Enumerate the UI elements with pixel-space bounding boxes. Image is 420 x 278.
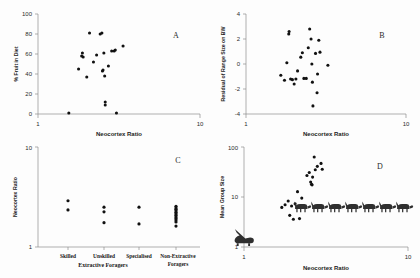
- data-point: [311, 183, 314, 186]
- data-point: [311, 176, 314, 179]
- data-point: [95, 53, 98, 56]
- panel-a-letter: A: [173, 31, 179, 40]
- panel-c-plot: 1 10 Skilled Unskilled Specialised Non-E…: [0, 139, 210, 278]
- data-point: [298, 217, 301, 220]
- data-point: [307, 46, 310, 49]
- data-point: [285, 61, 288, 64]
- data-point: [318, 51, 321, 54]
- panel-a-ytick-0: 0: [29, 111, 33, 117]
- data-point: [316, 72, 319, 75]
- panel-a-ytick-80: 80: [25, 31, 32, 37]
- data-point: [92, 60, 95, 63]
- panel-d-icon-row: [294, 202, 413, 213]
- data-point: [85, 75, 88, 78]
- panel-c: 1 10 Skilled Unskilled Specialised Non-E…: [0, 139, 210, 278]
- data-point: [107, 64, 110, 67]
- panel-c-group-label: Extractive Foragers: [78, 262, 128, 268]
- panel-a-xtick-1: 1: [36, 121, 40, 127]
- panel-c-category-unskilled: Unskilled: [93, 253, 115, 259]
- panel-b: -4 -2 0 2 4 1 10 Neocortex Ratio Residua…: [210, 0, 420, 139]
- panel-a-plot: 0 20 40 60 80 100 1 10 Neocortex Ratio %…: [0, 0, 210, 139]
- monkey-silhouette-icon: [362, 202, 379, 213]
- data-point: [66, 199, 69, 202]
- data-point: [104, 100, 107, 103]
- panel-c-ytick-10: 10: [25, 145, 32, 151]
- panel-b-datapoints: [279, 27, 329, 107]
- data-point: [293, 82, 296, 85]
- panel-c-ytick-1: 1: [29, 244, 33, 250]
- data-point: [299, 56, 302, 59]
- data-point: [300, 197, 303, 200]
- monkey-silhouette-icon: [345, 202, 362, 213]
- data-point: [67, 111, 70, 114]
- data-point: [291, 78, 294, 81]
- data-point: [316, 165, 319, 168]
- data-point: [313, 155, 316, 158]
- panel-c-ylabel: Neocortex Ratio: [12, 177, 18, 217]
- panel-d-ytick-100: 100: [228, 145, 239, 151]
- data-point: [137, 222, 140, 225]
- panel-c-letter: C: [175, 156, 180, 165]
- monkey-silhouette-icon: [328, 202, 345, 213]
- panel-c-datapoints: [66, 199, 177, 227]
- data-point: [308, 27, 311, 30]
- panel-a-datapoints: [67, 31, 124, 114]
- data-point: [311, 104, 314, 107]
- panel-a-xtick-10: 10: [197, 121, 204, 127]
- panel-d-y-ticks: 1 10 100: [228, 145, 244, 251]
- data-point: [305, 174, 308, 177]
- panel-b-letter: B: [379, 31, 384, 40]
- panel-b-plot: -4 -2 0 2 4 1 10 Neocortex Ratio Residua…: [210, 0, 420, 139]
- figure-container: 0 20 40 60 80 100 1 10 Neocortex Ratio %…: [0, 0, 420, 278]
- panel-b-ylabel: Residual of Range Size on BW: [220, 26, 226, 101]
- data-point: [103, 74, 106, 77]
- data-point: [311, 81, 314, 84]
- data-point: [114, 48, 117, 51]
- data-point: [280, 206, 283, 209]
- panel-b-x-ticks: 1 10: [244, 114, 410, 127]
- panel-b-ytick-0: 0: [237, 61, 241, 67]
- panel-b-xlabel: Neocortex Ratio: [303, 131, 349, 137]
- data-point: [283, 79, 286, 82]
- data-point: [122, 44, 125, 47]
- panel-b-y-ticks: -4 -2 0 2 4: [235, 11, 246, 117]
- data-point: [294, 77, 297, 80]
- panel-d: 1 10 100 1 10 Neocortex Ratio Mean Group…: [210, 139, 420, 278]
- panel-c-category-non-extractive-line2: Foragers: [168, 261, 189, 267]
- data-point: [321, 168, 324, 171]
- data-point: [101, 68, 104, 71]
- panel-a-ytick-60: 60: [25, 51, 32, 57]
- data-point: [317, 39, 320, 42]
- panel-b-xtick-10: 10: [403, 121, 410, 127]
- monkey-silhouette-icon: [311, 202, 328, 213]
- data-point: [115, 111, 118, 114]
- panel-d-xtick-10: 10: [405, 254, 412, 260]
- data-point: [296, 69, 299, 72]
- panel-a-ytick-20: 20: [25, 91, 32, 97]
- data-point: [326, 64, 329, 67]
- panel-c-category-skilled: Skilled: [60, 253, 76, 259]
- data-point: [301, 51, 304, 54]
- data-point: [279, 74, 282, 77]
- data-point: [82, 55, 85, 58]
- panel-b-xtick-1: 1: [244, 121, 248, 127]
- data-point: [137, 206, 140, 209]
- panel-c-category-specialised: Specialised: [126, 253, 151, 259]
- data-point: [174, 220, 177, 223]
- panel-a-x-ticks: 1 10: [36, 114, 204, 127]
- panel-b-ytick-neg4: -4: [235, 111, 241, 117]
- data-point: [100, 31, 103, 34]
- data-point: [320, 162, 323, 165]
- monkey-silhouette-icon: [294, 202, 311, 213]
- panel-d-letter: D: [377, 162, 383, 171]
- data-point: [104, 103, 107, 106]
- panel-c-category-non-extractive-line1: Non-Extractive: [160, 253, 196, 259]
- data-point: [296, 190, 299, 193]
- data-point: [287, 200, 290, 203]
- data-point: [284, 203, 287, 206]
- data-point: [310, 62, 313, 65]
- data-point: [88, 31, 91, 34]
- data-point: [102, 210, 105, 213]
- panel-b-ytick-2: 2: [237, 36, 241, 42]
- data-point: [316, 91, 319, 94]
